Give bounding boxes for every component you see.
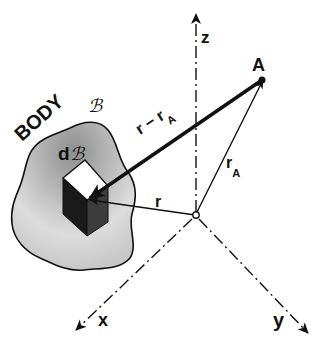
body-position-vectors-diagram: BODY ℬ dℬ A z x y r rA r − rA bbox=[0, 0, 315, 340]
element-symbol: ℬ bbox=[70, 143, 86, 164]
x-axis-label: x bbox=[98, 310, 108, 330]
z-axis-label: z bbox=[201, 28, 210, 47]
y-axis-label: y bbox=[273, 309, 285, 331]
vector-r-A bbox=[196, 80, 263, 214]
vector-rA-sub: A bbox=[232, 167, 240, 179]
element-d: d bbox=[58, 143, 70, 164]
point-A bbox=[259, 77, 266, 84]
vector-r-label: r bbox=[155, 193, 161, 210]
vector-diff-main: r − r bbox=[132, 107, 167, 138]
body-symbol-label: ℬ bbox=[88, 95, 104, 116]
y-axis bbox=[199, 219, 308, 333]
point-A-label: A bbox=[252, 55, 265, 75]
vector-diff-label: r − rA bbox=[132, 102, 178, 143]
origin-point bbox=[193, 212, 199, 218]
vector-diff-sub: A bbox=[165, 112, 178, 126]
vector-r-minus-rA bbox=[90, 80, 262, 198]
vector-rA-label: rA bbox=[226, 154, 240, 179]
element-label: dℬ bbox=[58, 143, 86, 164]
